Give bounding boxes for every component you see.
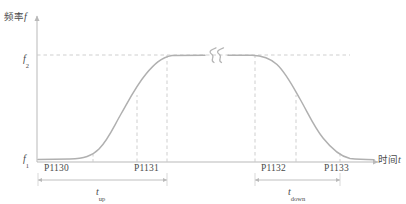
- parameter-label-p1131: P1131: [134, 164, 159, 174]
- parameter-label-p1133: P1133: [324, 164, 349, 174]
- y-tick-f1: f1: [23, 149, 29, 168]
- x-axis-label: 时间t: [378, 155, 401, 165]
- y-axis-symbol: f: [24, 11, 27, 22]
- parameter-label-p1130: P1130: [44, 164, 69, 174]
- parameter-label-p1132: P1132: [261, 164, 286, 174]
- frequency-profile-curve: [38, 55, 374, 160]
- dimension-label-t-down: tdown: [288, 182, 305, 201]
- y-tick-f2-subscript: 2: [26, 62, 29, 69]
- t-up-subscript: up: [99, 195, 106, 202]
- y-axis-label: 频率f: [4, 12, 27, 22]
- x-axis-symbol: t: [398, 154, 401, 165]
- dimension-label-t-up: tup: [96, 182, 105, 201]
- y-tick-f2: f2: [23, 49, 29, 68]
- y-tick-f1-subscript: 1: [26, 162, 29, 169]
- frequency-time-curve-figure: 频率f 时间t f2 f1 P1130 P1131 P1132 P1133 tu…: [0, 0, 406, 204]
- t-down-subscript: down: [291, 195, 305, 202]
